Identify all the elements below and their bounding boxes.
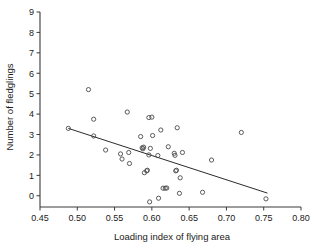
y-axis-title: Number of fledglings — [4, 63, 15, 150]
data-point — [148, 200, 152, 204]
data-point — [120, 157, 124, 161]
data-point — [86, 87, 90, 91]
chart-canvas: 0123456789 0.450.500.550.600.650.700.750… — [0, 0, 314, 248]
y-tick-label: 0 — [29, 191, 34, 201]
y-tick-label: 6 — [29, 69, 34, 79]
y-tick-label: 8 — [29, 28, 34, 38]
data-point — [92, 117, 96, 121]
y-tick-label: 9 — [29, 7, 34, 17]
x-tick-label: 0.60 — [143, 213, 161, 223]
y-tick-label: 2 — [29, 150, 34, 160]
data-point — [151, 133, 155, 137]
y-tick-label: 1 — [29, 171, 34, 181]
data-point — [104, 148, 108, 152]
x-axis: 0.450.500.550.600.650.700.750.80 — [31, 207, 310, 223]
data-point — [118, 152, 122, 156]
data-point — [200, 190, 204, 194]
data-point — [239, 130, 243, 134]
x-tick-label: 0.80 — [292, 213, 310, 223]
data-point — [264, 197, 268, 201]
y-tick-label: 7 — [29, 48, 34, 58]
y-tick-label: 4 — [29, 109, 34, 119]
data-point — [177, 191, 181, 195]
x-axis-title: Loading index of flying area — [114, 231, 231, 242]
y-tick-label: 5 — [29, 89, 34, 99]
data-point — [159, 128, 163, 132]
x-tick-label: 0.70 — [218, 213, 236, 223]
x-tick-label: 0.45 — [31, 213, 49, 223]
x-tick-label: 0.50 — [69, 213, 87, 223]
scatter-plot-figure: 0123456789 0.450.500.550.600.650.700.750… — [0, 0, 314, 248]
data-point — [209, 158, 213, 162]
data-points — [66, 87, 268, 204]
data-point — [125, 110, 129, 114]
data-point — [150, 115, 154, 119]
x-tick-label: 0.75 — [255, 213, 273, 223]
data-point — [127, 161, 131, 165]
y-tick-label: 3 — [29, 130, 34, 140]
x-tick-label: 0.65 — [180, 213, 198, 223]
y-axis: 0123456789 — [29, 7, 40, 207]
data-point — [175, 126, 179, 130]
data-point — [180, 150, 184, 154]
data-point — [148, 146, 152, 150]
data-point — [156, 196, 160, 200]
data-point — [178, 176, 182, 180]
data-point — [166, 145, 170, 149]
regression-line — [68, 128, 267, 193]
x-tick-label: 0.55 — [106, 213, 124, 223]
data-point — [139, 134, 143, 138]
data-point — [127, 150, 131, 154]
